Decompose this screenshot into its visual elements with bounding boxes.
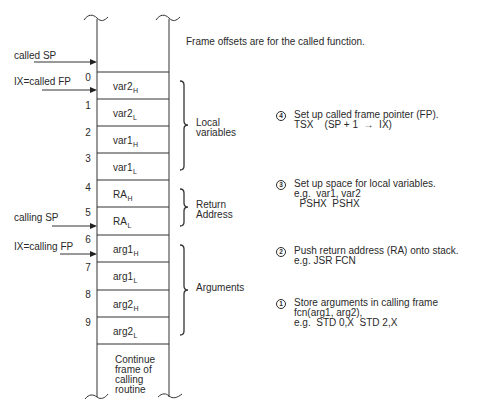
stack-cell-arg1-low: arg1L <box>113 272 137 283</box>
bottom-right-break-squiggle <box>158 394 182 398</box>
stack-cell-var1-low: var1L <box>113 163 137 174</box>
stack-cell-var1-high: var1H <box>113 136 138 147</box>
return-address-brace <box>180 189 188 226</box>
offset-number: 4 <box>83 183 93 193</box>
local-variables-brace <box>180 81 188 170</box>
offset-number: 1 <box>83 101 93 111</box>
calling-fp-arrowhead-icon <box>90 251 97 257</box>
pointer-label-calling-fp: IX=calling FP <box>14 242 73 252</box>
top-left-break-squiggle <box>84 15 108 20</box>
circled-number-1-icon: 1 <box>276 299 286 309</box>
arguments-brace <box>180 245 188 335</box>
group-label-arguments: Arguments <box>196 283 244 293</box>
stack-frame-diagram: Frame offsets are for the called functio… <box>0 0 477 415</box>
stack-cell-ra-high: RAH <box>113 190 132 201</box>
called-fp-arrowhead-icon <box>90 87 97 93</box>
stack-cell-arg2-high: arg2H <box>113 300 139 311</box>
offset-number: 5 <box>83 208 93 218</box>
stack-cell-ra-low: RAL <box>113 217 131 228</box>
group-label-local-variables: Local variables <box>196 118 236 138</box>
circled-number-2-icon: 2 <box>276 247 286 257</box>
group-label-return-address: Return Address <box>196 200 233 220</box>
offset-number: 6 <box>83 235 93 245</box>
circled-number-3-icon: 3 <box>276 180 286 190</box>
calling-frame-continuation: Continue frame of calling routine <box>115 355 155 395</box>
stack-cell-var2-low: var2L <box>113 109 137 120</box>
called-sp-arrowhead-icon <box>90 59 97 65</box>
pointer-label-calling-sp: calling SP <box>14 213 58 223</box>
diagram-caption: Frame offsets are for the called functio… <box>186 37 365 47</box>
offset-number: 7 <box>83 263 93 273</box>
offset-number: 8 <box>83 290 93 300</box>
pointer-label-called-fp: IX=called FP <box>14 77 71 87</box>
offset-number: 2 <box>83 128 93 138</box>
stack-cell-var2-high: var2H <box>113 82 138 93</box>
pointer-label-called-sp: called SP <box>14 51 56 61</box>
top-right-break-squiggle <box>156 15 180 20</box>
stack-cell-arg2-low: arg2L <box>113 327 137 338</box>
stack-cell-arg1-high: arg1H <box>113 245 139 256</box>
offset-number: 3 <box>83 154 93 164</box>
offset-number: 0 <box>83 73 93 83</box>
offset-number: 9 <box>83 318 93 328</box>
circled-number-4-icon: 4 <box>276 111 286 121</box>
calling-sp-arrowhead-icon <box>90 223 97 229</box>
